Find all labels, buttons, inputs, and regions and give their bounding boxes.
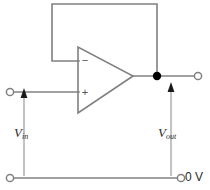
- vin-subscript: in: [22, 132, 28, 141]
- feedback-wire: [52, 4, 157, 76]
- vin-symbol: V: [14, 125, 22, 140]
- vout-arrow-head: [168, 82, 175, 92]
- vin-arrow-head: [21, 88, 28, 98]
- ground-label: 0 V: [185, 170, 203, 184]
- schematic-canvas: − +: [0, 0, 210, 190]
- output-junction-dot: [153, 72, 161, 80]
- vout-symbol: V: [158, 125, 166, 140]
- noninverting-input-sign: +: [82, 86, 88, 98]
- circuit-diagram: − + Vin Vout 0 V: [0, 0, 210, 190]
- ground-left-terminal-circle: [6, 174, 13, 181]
- inverting-input-sign: −: [82, 54, 88, 66]
- output-terminal-circle: [194, 72, 201, 79]
- vout-label: Vout: [158, 126, 176, 139]
- input-terminal-circle: [6, 88, 13, 95]
- vin-label: Vin: [14, 126, 28, 139]
- vout-subscript: out: [166, 132, 176, 141]
- ground-right-terminal-circle: [177, 174, 184, 181]
